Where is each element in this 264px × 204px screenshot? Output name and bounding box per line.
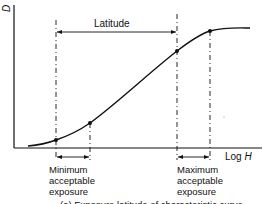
figure-caption: (a) Exposure latitude of characteristic … — [60, 199, 243, 204]
max-label-line-2: acceptable — [177, 175, 223, 186]
max-label-line-1: Maximum — [177, 164, 223, 175]
min-label-line-2: acceptable — [49, 175, 95, 186]
min-label-line-1: Minimum — [49, 164, 95, 175]
speck — [223, 116, 224, 117]
latitude-label: Latitude — [94, 18, 130, 29]
max-exposure-label: Maximum acceptable exposure — [177, 164, 223, 197]
point-shoulder — [208, 29, 212, 33]
point-toe — [88, 121, 92, 125]
x-axis-label: Log H — [225, 151, 252, 162]
point-max-exposure — [175, 49, 179, 53]
y-axis-label: D — [1, 5, 12, 12]
point-min-exposure — [54, 138, 58, 142]
min-label-line-3: exposure — [49, 186, 95, 197]
characteristic-curve — [28, 28, 250, 146]
x-axis-label-prefix: Log — [225, 151, 244, 162]
min-exposure-label: Minimum acceptable exposure — [49, 164, 95, 197]
max-label-line-3: exposure — [177, 186, 223, 197]
characteristic-curve-diagram — [0, 0, 264, 204]
x-axis-label-var: H — [244, 151, 251, 162]
